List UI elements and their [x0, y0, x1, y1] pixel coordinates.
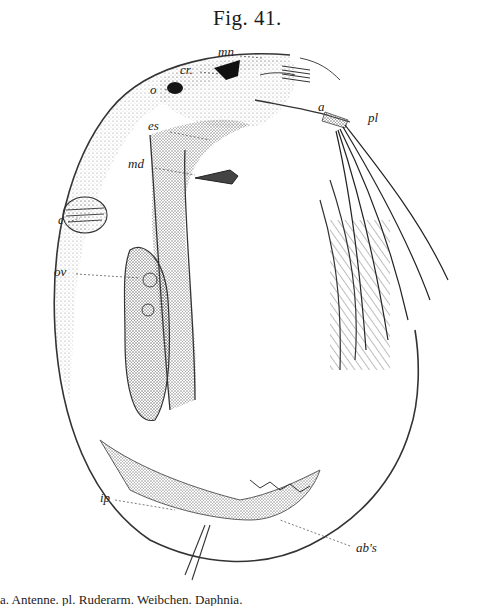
- label-c: c: [58, 212, 64, 228]
- heart: [63, 197, 107, 233]
- label-o: o: [150, 82, 157, 98]
- label-pl: pl: [368, 110, 378, 126]
- label-a: a: [318, 99, 325, 115]
- label-md: md: [128, 156, 144, 172]
- thoracic-limbs: [320, 180, 390, 370]
- label-cr: cr.: [180, 62, 193, 78]
- labrum: [195, 170, 238, 184]
- label-mn: mn: [218, 44, 234, 60]
- label-es: es: [148, 118, 159, 134]
- label-ip: ip: [100, 490, 110, 506]
- ovary: [124, 247, 169, 420]
- label-abs: ab's: [356, 540, 377, 556]
- label-ov: ov: [54, 264, 66, 280]
- anatomical-illustration: [0, 0, 495, 606]
- ocellus: [167, 82, 183, 94]
- figure-caption: a. Antenne. pl. Ruderarm. Weibchen. Daph…: [0, 592, 495, 606]
